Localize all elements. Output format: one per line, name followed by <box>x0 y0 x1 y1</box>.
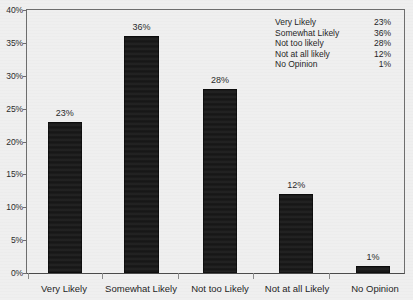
y-tick-mark-10 <box>23 207 27 208</box>
y-tick-mark-40 <box>23 10 27 11</box>
bar-value-no-opinion: 1% <box>367 253 380 266</box>
legend-value: 28% <box>374 38 391 49</box>
x-tick-mark-3 <box>253 273 254 279</box>
legend-row: Somewhat Likely 36% <box>275 28 391 39</box>
legend-label: Not too likely <box>275 38 324 49</box>
bar-value-very-likely: 23% <box>56 109 74 122</box>
x-label-very-likely: Very Likely <box>41 284 87 294</box>
legend: Very Likely 23% Somewhat Likely 36% Not … <box>275 17 391 70</box>
legend-row: Not too likely 28% <box>275 38 391 49</box>
y-tick-mark-5 <box>23 240 27 241</box>
bar-very-likely[interactable] <box>48 122 82 273</box>
legend-value: 36% <box>374 28 391 39</box>
legend-row: No Opinion 1% <box>275 59 391 70</box>
x-label-no-opinion: No Opinion <box>351 284 399 294</box>
x-label-not-at-all-likely: Not at all Likely <box>265 284 329 294</box>
y-tick-mark-25 <box>23 109 27 110</box>
bar-somewhat-likely[interactable] <box>124 36 159 273</box>
bar-value-not-at-all-likely: 12% <box>287 181 305 194</box>
bar-chart: 0% 5% 10% 15% 20% 25% 30% 35% 40% <box>0 0 413 300</box>
legend-row: Not at all likely 12% <box>275 49 391 60</box>
y-tick-mark-35 <box>23 43 27 44</box>
y-tick-mark-0 <box>23 273 27 274</box>
bar-no-opinion[interactable] <box>356 266 391 273</box>
bar-not-too-likely[interactable] <box>203 89 238 273</box>
bar-value-somewhat-likely: 36% <box>133 23 151 36</box>
x-label-somewhat-likely: Somewhat Likely <box>105 284 177 294</box>
bar-value-not-too-likely: 28% <box>211 76 229 89</box>
x-tick-mark-4 <box>329 273 330 279</box>
y-tick-mark-20 <box>23 142 27 143</box>
legend-row: Very Likely 23% <box>275 17 391 28</box>
legend-label: No Opinion <box>275 59 318 70</box>
x-label-not-too-likely: Not too Likely <box>191 284 249 294</box>
legend-label: Very Likely <box>275 17 316 28</box>
y-tick-mark-15 <box>23 174 27 175</box>
legend-value: 12% <box>374 49 391 60</box>
x-tick-mark-start <box>28 273 29 279</box>
legend-label: Somewhat Likely <box>275 28 339 39</box>
x-tick-mark-2 <box>178 273 179 279</box>
y-tick-mark-30 <box>23 76 27 77</box>
legend-value: 1% <box>379 59 391 70</box>
legend-value: 23% <box>374 17 391 28</box>
bar-not-at-all-likely[interactable] <box>279 194 313 273</box>
legend-label: Not at all likely <box>275 49 330 60</box>
x-tick-mark-1 <box>102 273 103 279</box>
